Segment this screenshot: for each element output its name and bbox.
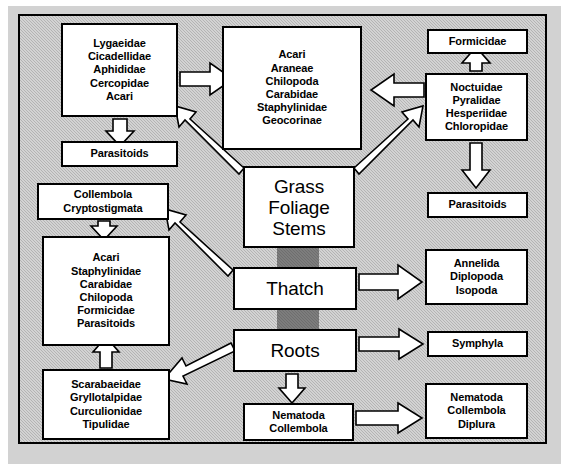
resource-label: Foliage [268,197,330,218]
root-feeder-taxa-box[interactable]: Scarabaeidae Gryllotalpidae Curculionida… [42,369,170,440]
detritivore-taxa-box[interactable]: Annelida Diplopoda Isopoda [425,249,528,305]
grass-foliage-stems-resource-box[interactable]: Grass Foliage Stems [243,166,355,248]
taxon-label: Cercopidae [90,77,149,90]
taxon-label: Cicadellidae [88,50,151,63]
taxon-label: Pyralidae [452,94,500,107]
taxon-label: Geocorinae [262,114,322,127]
taxon-label: Araneae [271,62,314,75]
parasitoids-right-box[interactable]: Parasitoids [427,192,528,218]
taxon-label: Noctuidae [450,81,502,94]
taxon-label: Acari [92,251,119,264]
taxon-label: Aphididae [93,63,145,76]
taxon-label: Carabidae [266,88,318,101]
foliage-predator-taxa-box[interactable]: Acari Araneae Chilopoda Carabidae Staphy… [222,26,362,150]
symphyla-box[interactable]: Symphyla [427,331,528,357]
roots-resource-box[interactable]: Roots [233,329,357,372]
taxon-label: Chloropidae [445,120,508,133]
taxon-label: Parasitoids [77,317,135,330]
taxon-label: Scarabaeidae [71,378,141,391]
taxon-label: Collembola [447,404,505,417]
sap-feeder-taxa-box[interactable]: Lygaeidae Cicadellidae Aphididae Cercopi… [61,23,178,117]
taxon-label: Hesperiidae [446,107,507,120]
taxon-label: Parasitoids [448,198,506,211]
taxon-label: Chilopoda [80,291,133,304]
taxon-label: Acari [106,90,133,103]
resource-label: Grass [274,176,324,197]
resource-label: Thatch [266,278,324,299]
diagram-canvas: Lygaeidae Cicadellidae Aphididae Cercopi… [0,0,569,472]
taxon-label: Lygaeidae [93,37,146,50]
thatch-resource-box[interactable]: Thatch [233,267,357,310]
taxon-label: Diplura [458,418,495,431]
taxon-label: Symphyla [452,337,503,350]
taxon-label: Diplopoda [450,270,503,283]
taxon-label: Formicidae [77,304,135,317]
grass-to-thatch-link [277,248,319,268]
nematoda-collembola-box[interactable]: Nematoda Collembola [243,403,354,441]
parasitoids-upper-left-box[interactable]: Parasitoids [61,141,178,167]
taxon-label: Carabidae [80,278,132,291]
taxon-label: Staphylinidae [257,101,327,114]
chewing-herbivore-taxa-box[interactable]: Noctuidae Pyralidae Hesperiidae Chloropi… [425,73,528,141]
resource-label: Stems [272,218,325,239]
taxon-label: Curculionidae [70,405,142,418]
formicidae-box[interactable]: Formicidae [427,29,528,54]
taxon-label: Chilopoda [266,75,319,88]
taxon-label: Collembola [269,422,327,435]
thatch-predator-taxa-box[interactable]: Acari Staphylinidae Carabidae Chilopoda … [42,236,170,346]
nematoda-collembola-diplura-box[interactable]: Nematoda Collembola Diplura [425,383,528,439]
taxon-label: Tipulidae [82,418,129,431]
taxon-label: Isopoda [456,284,497,297]
resource-label: Roots [270,340,319,361]
taxon-label: Collembola [74,188,132,201]
collembola-cryptostigmata-box[interactable]: Collembola Cryptostigmata [37,183,169,220]
taxon-label: Acari [278,48,305,61]
taxon-label: Formicidae [449,35,507,48]
taxon-label: Parasitoids [90,147,148,160]
thatch-to-roots-link [277,310,319,330]
taxon-label: Cryptostigmata [63,202,142,215]
taxon-label: Nematoda [450,391,502,404]
taxon-label: Annelida [454,257,500,270]
taxon-label: Nematoda [272,409,324,422]
taxon-label: Staphylinidae [71,265,141,278]
taxon-label: Gryllotalpidae [70,391,142,404]
